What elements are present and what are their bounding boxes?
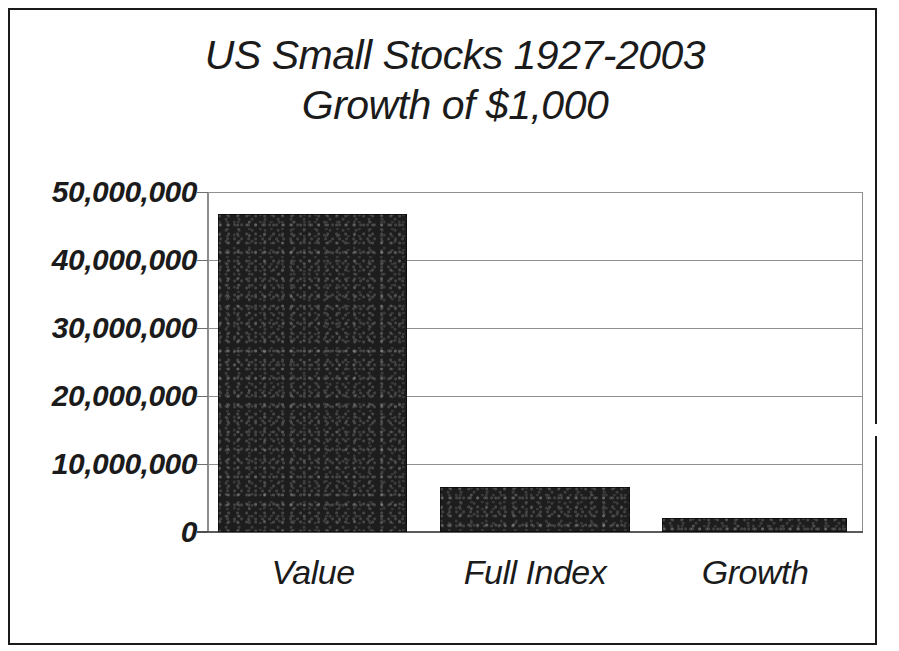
gridline-50m (207, 192, 863, 193)
y-axis-tick-label: 30,000,000 (7, 313, 197, 343)
chart-title-line-1: US Small Stocks 1927-2003 (60, 30, 850, 80)
y-axis-tick (197, 328, 208, 329)
y-axis-tick (197, 192, 208, 193)
chart-page: US Small Stocks 1927-2003 Growth of $1,0… (0, 0, 899, 651)
chart-title-line-2: Growth of $1,000 (60, 80, 850, 130)
bar-value (218, 214, 407, 532)
y-axis-tick-label: 0 (7, 517, 197, 547)
y-axis-tick-label: 50,000,000 (7, 177, 197, 207)
bar-growth (662, 518, 847, 532)
bar-full-index (440, 487, 630, 532)
x-axis-category-label: Value (213, 552, 413, 592)
y-axis-tick (197, 464, 208, 465)
plot-area (207, 192, 863, 532)
y-axis-labels: 50,000,000 40,000,000 30,000,000 20,000,… (5, 192, 197, 532)
chart-title: US Small Stocks 1927-2003 Growth of $1,0… (60, 30, 850, 130)
x-axis-category-label: Growth (655, 552, 855, 592)
x-axis-labels: Value Full Index Growth (207, 552, 863, 598)
y-axis-tick-label: 10,000,000 (7, 449, 197, 479)
y-axis-tick (197, 531, 208, 533)
x-axis-category-label: Full Index (435, 552, 635, 592)
y-axis-tick-label: 40,000,000 (7, 245, 197, 275)
y-axis-tick (197, 260, 208, 261)
y-axis-tick (197, 396, 208, 397)
bar-chart: US Small Stocks 1927-2003 Growth of $1,0… (0, 0, 899, 651)
y-axis-tick-label: 20,000,000 (7, 381, 197, 411)
